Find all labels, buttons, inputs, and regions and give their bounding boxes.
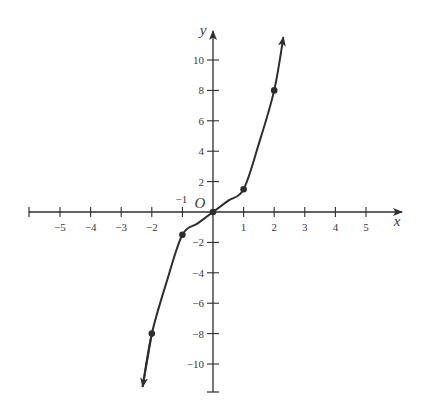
x-tick-label: 5: [363, 221, 369, 233]
data-point: [149, 330, 156, 337]
y-tick-label: −2: [192, 236, 204, 248]
data-point: [179, 232, 186, 239]
y-tick-label: −6: [192, 297, 204, 309]
y-tick-label: 4: [199, 145, 205, 157]
y-tick-label: 6: [199, 115, 205, 127]
x-tick-label: −2: [146, 221, 158, 233]
data-point: [210, 209, 217, 216]
x-tick-label: 4: [333, 221, 339, 233]
origin-label: O: [195, 195, 206, 211]
axis-labels: xyO: [195, 22, 401, 229]
curve-start-arrow: [143, 334, 152, 387]
data-point: [240, 186, 247, 193]
y-tick-label: 8: [199, 84, 205, 96]
y-tick-label: 2: [199, 176, 205, 188]
x-tick-label: −5: [54, 221, 66, 233]
x-tick-label: −1: [176, 193, 188, 205]
y-tick-label: −4: [192, 267, 204, 279]
y-tick-label: 10: [193, 54, 205, 66]
x-tick-label: −4: [85, 221, 97, 233]
y-tick-label: −8: [192, 328, 204, 340]
y-tick-label: −10: [187, 358, 205, 370]
x-tick-label: 3: [302, 221, 308, 233]
graph-figure: −5−4−3−2−112345−10−8−6−4−2246810 xyO: [0, 0, 423, 417]
x-axis-label: x: [393, 213, 401, 229]
x-tick-label: 1: [241, 221, 247, 233]
coordinate-plane: −5−4−3−2−112345−10−8−6−4−2246810 xyO: [0, 0, 423, 417]
x-tick-label: 2: [271, 221, 277, 233]
data-point: [271, 87, 278, 94]
y-axis-label: y: [198, 22, 207, 38]
x-tick-label: −3: [115, 221, 127, 233]
